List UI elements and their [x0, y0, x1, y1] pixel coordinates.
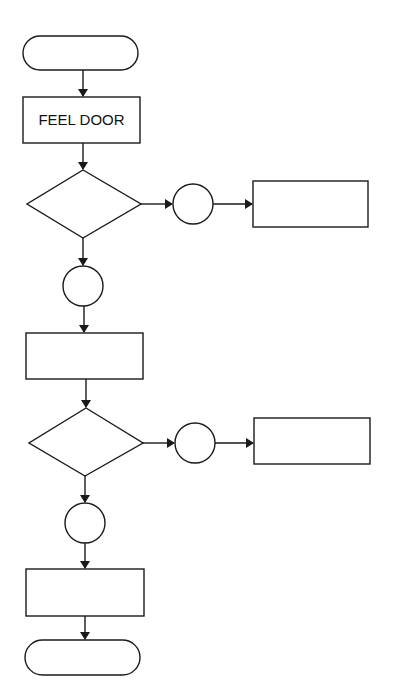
process-1b-box [253, 181, 368, 227]
process-2-box [26, 333, 143, 379]
feel-door-label: FEEL DOOR [38, 111, 124, 128]
decision-2-diamond [29, 408, 143, 476]
connector-1a-circle [173, 184, 213, 224]
start-terminal [23, 36, 138, 70]
connector-2c-circle [65, 503, 105, 543]
connector-2a-circle [175, 423, 215, 463]
flowchart: FEEL DOOR [0, 0, 397, 700]
process-2b-box [254, 418, 370, 464]
end-terminal [25, 640, 140, 675]
decision-1-diamond [27, 170, 141, 238]
connector-1c-circle [63, 266, 103, 306]
process-3-box [26, 569, 144, 616]
